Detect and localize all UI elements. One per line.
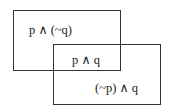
label-p-and-not-q: p ∧ (~q) [29,24,72,37]
label-not-p-and-q: (~p) ∧ q [95,82,138,95]
label-p-and-q: p ∧ q [72,54,100,67]
set-q-rectangle [53,44,161,105]
